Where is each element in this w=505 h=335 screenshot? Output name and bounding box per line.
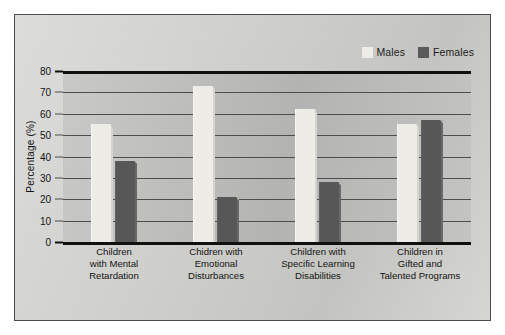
y-tick-70: 70 [35,87,63,98]
x-axis-label-4-line-3: Talented Programs [370,270,470,282]
x-axis-label-1-line-1: Children [64,246,164,258]
bar-group-2 [165,71,267,242]
y-tick-label-80: 80 [35,66,51,77]
y-tick-mark-60 [55,113,63,114]
chart-legend: Males Females [362,46,474,58]
x-axis-label-3: Children withSpecific LearningDisabiliti… [267,246,369,283]
y-tick-label-10: 10 [35,215,51,226]
bar-group-4 [369,71,471,242]
plot-area: 80706050403020100 [63,71,471,242]
y-tick-60: 60 [35,108,63,119]
y-axis-title-text: Percentage (%) [25,120,36,192]
x-axis-label-2-line-3: Disturbances [166,270,266,282]
bar-females-2[interactable] [217,197,239,242]
y-tick-label-30: 30 [35,172,51,183]
y-tick-mark-80 [55,70,63,72]
bar-groups [63,71,471,242]
y-tick-mark-30 [55,177,63,178]
y-tick-mark-20 [55,199,63,200]
y-tick-mark-70 [55,92,63,93]
legend-label-males: Males [377,46,406,58]
y-tick-mark-0 [55,241,63,243]
y-tick-0: 0 [35,237,63,248]
y-tick-10: 10 [35,215,63,226]
legend-label-females: Females [433,46,474,58]
y-tick-label-40: 40 [35,151,51,162]
x-axis-label-2-line-1: Chidren with [166,246,266,258]
x-axis-label-1-line-3: Retardation [64,270,164,282]
y-tick-40: 40 [35,151,63,162]
x-axis-label-3-line-3: Disabilities [268,270,368,282]
x-axis-label-1-line-2: with Mental [64,258,164,270]
y-tick-label-0: 0 [35,237,51,248]
x-axis-label-4: Children inGifted andTalented Programs [369,246,471,283]
bar-group-3 [267,71,369,242]
legend-swatch-males-icon [362,47,373,58]
x-axis-label-3-line-2: Specific Learning [268,258,368,270]
y-tick-30: 30 [35,172,63,183]
x-axis-label-3-line-1: Children with [268,246,368,258]
x-axis-label-4-line-2: Gifted and [370,258,470,270]
legend-entry-females: Females [418,46,474,58]
y-tick-mark-40 [55,156,63,157]
y-tick-mark-10 [55,220,63,221]
bar-males-2[interactable] [193,86,215,242]
y-tick-mark-50 [55,135,63,136]
bar-females-1[interactable] [115,161,137,242]
bar-females-3[interactable] [319,182,341,242]
x-axis-labels: Childrenwith MentalRetardationChidren wi… [63,246,471,283]
x-axis-label-4-line-1: Children in [370,246,470,258]
x-axis-label-1: Childrenwith MentalRetardation [63,246,165,283]
x-axis-label-2: Chidren withEmotionalDisturbances [165,246,267,283]
bar-males-4[interactable] [397,124,419,242]
y-tick-50: 50 [35,130,63,141]
bar-females-4[interactable] [421,120,443,242]
y-tick-label-70: 70 [35,87,51,98]
y-tick-80: 80 [35,66,63,77]
chart-figure: Males Females Percentage (%) 80706050403… [14,14,491,321]
y-tick-label-50: 50 [35,130,51,141]
bar-group-1 [63,71,165,242]
y-tick-label-60: 60 [35,108,51,119]
bar-males-1[interactable] [91,124,113,242]
legend-swatch-females-icon [418,47,429,58]
y-tick-label-20: 20 [35,194,51,205]
bar-males-3[interactable] [295,109,317,242]
gridline-0 [63,242,471,245]
x-axis-label-2-line-2: Emotional [166,258,266,270]
legend-entry-males: Males [362,46,406,58]
y-tick-20: 20 [35,194,63,205]
